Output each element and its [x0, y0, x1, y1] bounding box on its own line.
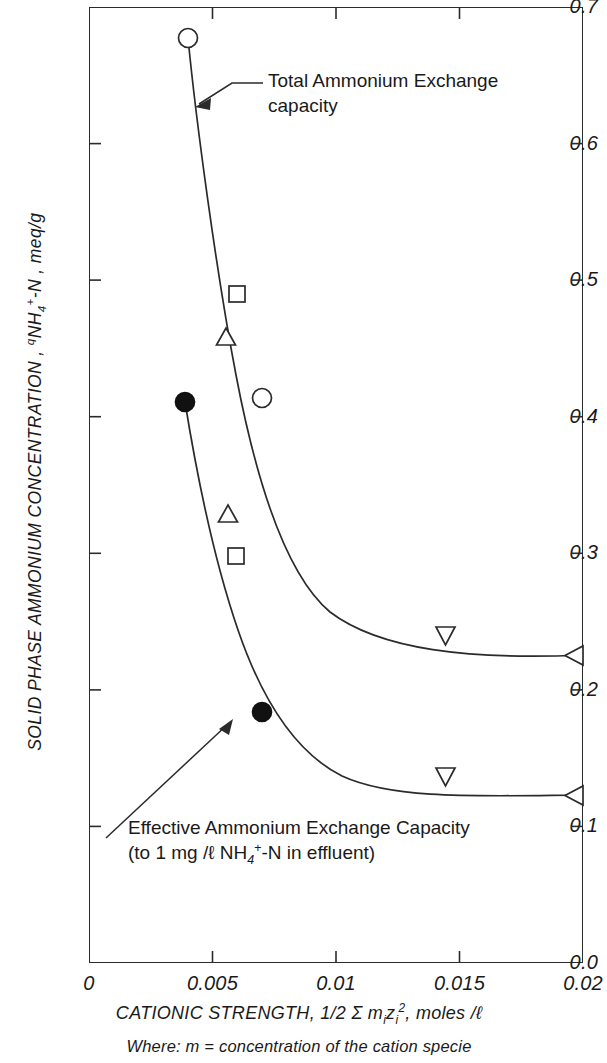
marker-triangle-down-open: [436, 627, 455, 645]
annotation-effective-line2-pre: (to 1 mg /ℓ NH: [128, 842, 247, 863]
marker-triangle-left-open: [565, 786, 583, 805]
annotation-total-capacity: Total Ammonium Exchange capacity: [268, 68, 498, 118]
marker-triangle-left-open: [565, 646, 583, 665]
annotation-effective-line1: Effective Ammonium Exchange Capacity: [128, 815, 470, 840]
marker-circle-filled: [253, 703, 272, 722]
x-axis-title: CATIONIC STRENGTH, 1/2 Σ mizi2, moles /ℓ: [0, 1001, 598, 1027]
annotation-total-line1: Total Ammonium Exchange: [268, 68, 498, 93]
curve-total-ammonium-exchange: [188, 38, 583, 656]
annotation-effective-line2: (to 1 mg /ℓ NH4+-N in effluent): [128, 840, 470, 869]
curve-effective-ammonium-exchange: [185, 402, 583, 796]
series-total-markers: [179, 29, 584, 666]
figure-footnote: Where: m = concentration of the cation s…: [0, 1037, 598, 1056]
annotation-leader-total: [195, 83, 263, 110]
marker-square-open: [228, 548, 244, 564]
series-effective-markers: [176, 393, 584, 806]
marker-circle-open: [179, 29, 198, 48]
marker-circle-filled: [176, 393, 195, 412]
y-axis-title-sub4: 4: [36, 305, 48, 312]
y-axis-title-sup-plus: +: [24, 298, 36, 305]
y-axis-title-nh: NH: [25, 312, 45, 338]
annotation-total-line2: capacity: [268, 93, 498, 118]
x-axis-title-m: m: [368, 1003, 383, 1023]
y-axis-title-main: SOLID PHASE AMMONIUM CONCENTRATION ,: [25, 345, 45, 751]
annotation-effective-sub4: 4: [247, 853, 254, 867]
annotation-effective-line2-post: -N in effluent): [261, 842, 375, 863]
y-axis-title: SOLID PHASE AMMONIUM CONCENTRATION , qNH…: [24, 162, 47, 802]
marker-triangle-down-open: [436, 768, 455, 786]
x-axis-title-pre: CATIONIC STRENGTH, 1/2 Σ: [116, 1003, 368, 1023]
y-axis-title-q: q: [24, 338, 36, 345]
annotation-effective-capacity: Effective Ammonium Exchange Capacity (to…: [128, 815, 470, 869]
marker-circle-open: [253, 389, 272, 408]
x-axis-title-post: , moles /ℓ: [405, 1003, 482, 1023]
y-axis-title-suffix: -N , meq/g: [25, 213, 45, 299]
marker-triangle-up-open: [219, 505, 238, 522]
marker-square-open: [229, 286, 245, 302]
marker-triangle-up-open: [217, 328, 236, 345]
